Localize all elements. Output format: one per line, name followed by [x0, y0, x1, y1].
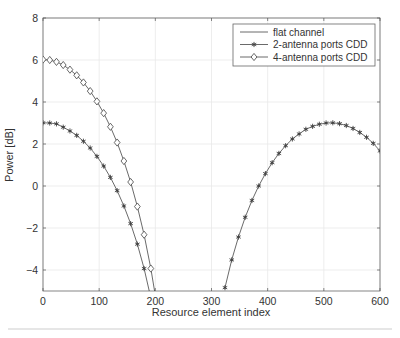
y-tick-label: 0: [32, 180, 38, 192]
x-tick-label: 500: [315, 295, 333, 307]
y-tick-label: −2: [26, 222, 38, 234]
x-tick-label: 100: [90, 295, 108, 307]
y-tick-label: 2: [32, 138, 38, 150]
x-tick-label: 600: [371, 295, 389, 307]
legend-label: flat channel: [273, 27, 324, 38]
y-axis-label: Power [dB]: [3, 128, 15, 182]
figure-caption-cutoff: [8, 326, 392, 332]
series-4-antenna-ports-cdd: [40, 56, 160, 313]
legend-label: 4-antenna ports CDD: [273, 52, 368, 63]
legend-label: 2-antenna ports CDD: [273, 39, 368, 50]
line-chart: 0100200300400500600−4−202468 flat channe…: [0, 0, 400, 338]
x-axis-label: Resource element index: [152, 306, 271, 318]
x-tick-label: 0: [40, 295, 46, 307]
y-tick-label: −4: [26, 264, 38, 276]
y-tick-label: 4: [32, 96, 38, 108]
legend: flat channel2-antenna ports CDD4-antenna…: [233, 24, 375, 66]
y-tick-label: 8: [32, 12, 38, 24]
y-tick-label: 6: [32, 54, 38, 66]
